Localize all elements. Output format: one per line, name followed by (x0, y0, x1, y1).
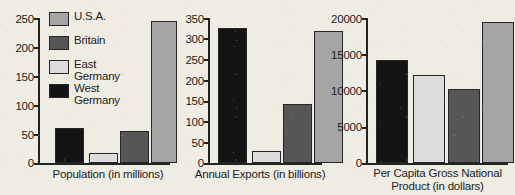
bar-east-germany (252, 151, 281, 163)
y-axis-tick (204, 121, 209, 123)
y-tick-label: 200 (172, 76, 204, 88)
y-tick-label: 20000 (318, 14, 362, 26)
bar-britain (283, 104, 312, 163)
y-axis-tick (34, 134, 39, 136)
y-tick-label: 15000 (318, 50, 362, 62)
x-axis-line (38, 163, 170, 165)
x-axis-line (366, 163, 508, 165)
chart-legend: U.S.A. Britain East Germany West Germany (49, 11, 145, 107)
y-tick-label: 0 (2, 158, 34, 170)
x-axis-line (208, 163, 322, 165)
x-axis-label: Per Capita Gross National Product (in do… (360, 167, 515, 193)
y-axis-tick (34, 105, 39, 107)
y-axis-tick (34, 18, 39, 20)
bar-usa (482, 22, 514, 163)
x-axis-label: Population (in millions) (38, 168, 178, 181)
legend-item-west-germany: West Germany (49, 83, 145, 105)
y-axis-tick (362, 18, 367, 20)
bar-east-germany (89, 153, 118, 163)
y-tick-label: 50 (172, 138, 204, 150)
x-axis-label: Annual Exports (in billions) (190, 168, 330, 181)
bar-west-germany (55, 128, 84, 163)
legend-swatch-east-germany-icon (49, 60, 69, 74)
bar-west-germany (376, 60, 408, 163)
y-axis-tick (362, 163, 367, 165)
legend-swatch-west-germany-icon (49, 84, 69, 98)
legend-item-east-germany: East Germany (49, 59, 145, 81)
y-axis-tick (204, 142, 209, 144)
legend-swatch-britain-icon (49, 36, 69, 50)
bar-west-germany (218, 28, 247, 163)
y-axis-tick (204, 80, 209, 82)
y-tick-label: 100 (2, 101, 34, 113)
y-tick-label: 150 (2, 72, 34, 84)
legend-item-usa: U.S.A. (49, 11, 145, 33)
y-axis-tick (204, 18, 209, 20)
y-tick-label: 350 (172, 14, 204, 26)
bar-east-germany (413, 75, 445, 163)
y-axis-tick (204, 59, 209, 61)
y-tick-label: 100 (172, 117, 204, 129)
y-tick-label: 0 (318, 158, 362, 170)
y-tick-label: 300 (172, 34, 204, 46)
legend-label-east-germany: East Germany (74, 59, 120, 82)
y-axis-tick (362, 90, 367, 92)
y-tick-label: 250 (2, 14, 34, 26)
x-axis-label-line-1: Per Capita Gross National (373, 167, 502, 179)
y-axis-tick (204, 38, 209, 40)
bar-britain (120, 131, 149, 163)
y-axis-tick (362, 127, 367, 129)
y-tick-label: 10000 (318, 86, 362, 98)
y-tick-label: 250 (172, 55, 204, 67)
x-axis-label-line-2: Product (in dollars) (360, 180, 515, 193)
chart-panel-annual-exports: 350 300 250 200 150 100 50 0 Annual Expo… (172, 0, 322, 195)
y-tick-label: 150 (172, 96, 204, 108)
y-axis-tick (362, 54, 367, 56)
y-axis-tick (204, 163, 209, 165)
y-axis-tick (34, 47, 39, 49)
y-axis-tick (34, 76, 39, 78)
y-axis-tick (34, 163, 39, 165)
y-tick-label: 5000 (318, 122, 362, 134)
y-axis-tick (204, 101, 209, 103)
y-tick-label: 200 (2, 43, 34, 55)
legend-label-west-germany: West Germany (74, 83, 120, 106)
bar-britain (448, 89, 480, 163)
legend-item-britain: Britain (49, 35, 145, 57)
legend-swatch-usa-icon (49, 12, 69, 26)
y-axis-line (38, 18, 40, 164)
chart-panel-per-capita-gnp: 20000 15000 10000 5000 0 Per Capita Gros… (318, 0, 508, 195)
legend-label-britain: Britain (74, 35, 105, 47)
y-tick-label: 50 (2, 130, 34, 142)
legend-label-usa: U.S.A. (74, 11, 106, 23)
